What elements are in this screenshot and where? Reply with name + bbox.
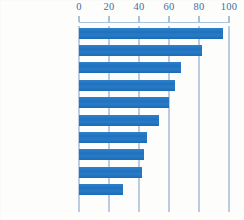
bar-row: OECD average bbox=[0, 96, 244, 113]
category-label: Sweden bbox=[0, 79, 74, 92]
category-label: Italy bbox=[0, 61, 74, 74]
category-label: Germany bbox=[0, 166, 74, 179]
plot-area: GreeceNetherlandsItalySwedenOECD average… bbox=[0, 26, 244, 216]
bar bbox=[79, 149, 144, 160]
x-axis-tick-label: 40 bbox=[134, 1, 145, 13]
bar-row: Netherlands bbox=[0, 44, 244, 61]
bar bbox=[79, 28, 223, 39]
bar-chart: 020406080100 GreeceNetherlandsItalySwede… bbox=[0, 0, 244, 220]
x-axis: 020406080100 bbox=[0, 0, 244, 26]
category-label: Australia bbox=[0, 131, 74, 144]
category-label: Britain bbox=[0, 183, 74, 196]
category-label: Greece bbox=[0, 27, 74, 40]
category-label: France bbox=[0, 114, 74, 127]
bar bbox=[79, 115, 159, 126]
category-label: United States bbox=[0, 148, 74, 161]
bar-row: France bbox=[0, 114, 244, 131]
bar bbox=[79, 62, 181, 73]
bar-row: Italy bbox=[0, 61, 244, 78]
bar-row: Britain bbox=[0, 183, 244, 200]
bar bbox=[79, 184, 123, 195]
bar-row: Sweden bbox=[0, 79, 244, 96]
bar bbox=[79, 132, 147, 143]
bar-row: United States bbox=[0, 148, 244, 165]
bar bbox=[79, 45, 202, 56]
x-axis-tick-label: 20 bbox=[104, 1, 115, 13]
category-label: Netherlands bbox=[0, 44, 74, 57]
bar bbox=[79, 167, 142, 178]
x-axis-tick-label: 100 bbox=[221, 1, 237, 13]
bar bbox=[79, 80, 175, 91]
x-axis-tick-label: 0 bbox=[76, 1, 81, 13]
x-axis-tick-label: 80 bbox=[194, 1, 205, 13]
bar-row: Greece bbox=[0, 27, 244, 44]
category-label: OECD average bbox=[0, 96, 74, 109]
bar bbox=[79, 97, 169, 108]
x-axis-tick-label: 60 bbox=[164, 1, 175, 13]
x-axis-rule bbox=[79, 22, 230, 23]
bar-row: Germany bbox=[0, 166, 244, 183]
bar-row: Australia bbox=[0, 131, 244, 148]
